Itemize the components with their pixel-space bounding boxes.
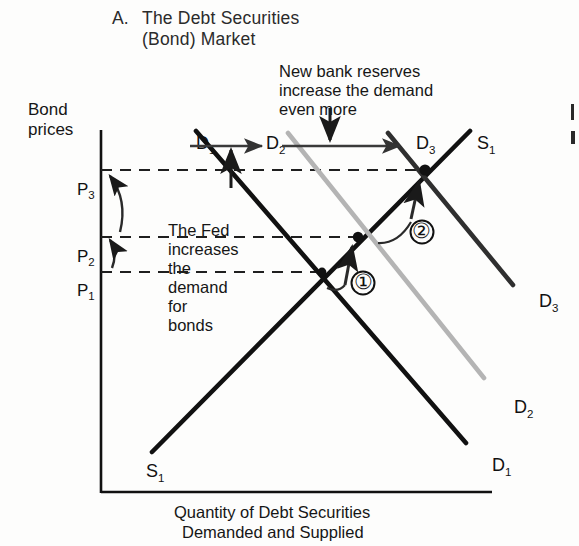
- demand-curve-d3: [388, 133, 513, 285]
- step-two-arc: [378, 222, 411, 243]
- edge-fragment-upper: [571, 104, 574, 120]
- price-rise-arrow-p2-p3: [110, 176, 122, 232]
- supply-curve-s1: [152, 131, 470, 452]
- step-two-circle: [411, 221, 434, 244]
- x-axis-caption-line1: Quantity of Debt Securities: [174, 503, 370, 522]
- bond-market-figure: A. The Debt Securities (Bond) Market New…: [0, 0, 579, 546]
- price-guide-lines: [101, 170, 425, 272]
- edge-fragment-lower: [571, 131, 575, 144]
- x-axis-caption-line2: Demanded and Supplied: [182, 523, 364, 542]
- equilibrium-dot-e3: [419, 164, 430, 175]
- equilibrium-dot-e1: [318, 268, 327, 277]
- equilibrium-dot-e2: [353, 232, 363, 242]
- graph-vector-layer: [0, 0, 579, 546]
- price-rise-arrow-p1-p2: [110, 240, 115, 268]
- step-one-circle: [352, 272, 375, 295]
